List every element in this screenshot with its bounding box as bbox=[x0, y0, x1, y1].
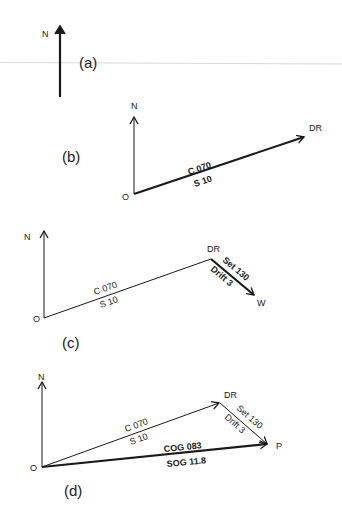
panel-label: (a) bbox=[79, 54, 97, 71]
panel-label: (c) bbox=[62, 334, 80, 351]
panel-c: N O DR W C 070 S 10 Set 130 Drift 3 (c) bbox=[24, 231, 266, 351]
panel-b: N O DR C 070 S 10 (b) bbox=[62, 101, 322, 202]
end-label: P bbox=[276, 441, 282, 451]
origin-label: O bbox=[30, 463, 37, 473]
origin-label: O bbox=[122, 192, 129, 202]
panel-label: (d) bbox=[64, 482, 82, 499]
origin-label: O bbox=[33, 314, 40, 324]
speed-label: S 10 bbox=[192, 174, 213, 189]
speed-label: S 10 bbox=[98, 294, 119, 310]
north-label: N bbox=[131, 101, 138, 111]
speed-label: S 10 bbox=[128, 431, 149, 447]
vector-diagram: N (a) N O DR C 070 S 10 (b) N O DR W C 0… bbox=[0, 0, 342, 522]
end-label: W bbox=[257, 298, 266, 308]
panel-d: N O DR P C 070 S 10 Set 130 Drift 3 COG … bbox=[30, 372, 282, 499]
dr-label: DR bbox=[207, 244, 220, 254]
sog-label: SOG 11.8 bbox=[166, 455, 206, 469]
ground-track-vector bbox=[42, 444, 267, 467]
north-label: N bbox=[42, 29, 49, 39]
dr-label: DR bbox=[309, 123, 322, 133]
north-label: N bbox=[38, 372, 45, 382]
dr-label: DR bbox=[224, 390, 237, 400]
panel-a: N (a) bbox=[42, 26, 97, 97]
course-vector bbox=[44, 259, 211, 318]
panel-label: (b) bbox=[62, 148, 80, 165]
course-vector bbox=[134, 137, 304, 194]
page-rule bbox=[0, 63, 342, 65]
north-label: N bbox=[24, 232, 31, 242]
